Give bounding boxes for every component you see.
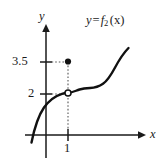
y-axis	[42, 24, 50, 158]
y-tick-label-2: 2	[28, 87, 34, 100]
curve-label-equals: =	[92, 13, 101, 27]
open-circle-point-1-2	[65, 90, 71, 96]
curve-label-argument: (x)	[108, 13, 124, 27]
x-tick-label-1: 1	[64, 142, 70, 155]
plot-canvas	[0, 0, 164, 168]
y-tick-label-3.5: 3.5	[12, 55, 28, 68]
x-axis-arrowhead	[138, 131, 146, 139]
y-axis-arrowhead	[42, 24, 50, 32]
curve-label-y: y	[86, 13, 92, 27]
function-graph-figure: y=f2(x) y x 3.5 2 1	[0, 0, 164, 168]
x-axis	[25, 131, 146, 139]
y-axis-label: y	[39, 10, 45, 23]
curve-equation-label: y=f2(x)	[86, 14, 124, 28]
x-axis-label: x	[150, 128, 156, 141]
filled-dot-point-1-3.5	[65, 58, 71, 64]
